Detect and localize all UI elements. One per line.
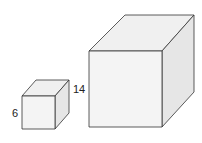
cubes-diagram: 6 14 — [0, 0, 202, 143]
large-cube — [89, 15, 194, 127]
small-cube-side-label: 6 — [12, 107, 18, 119]
diagram-canvas: 6 14 — [0, 0, 202, 143]
small-cube — [22, 80, 69, 129]
large-cube-side-label: 14 — [73, 83, 85, 95]
large-cube-front-face — [89, 51, 162, 127]
small-cube-front-face — [22, 96, 55, 129]
